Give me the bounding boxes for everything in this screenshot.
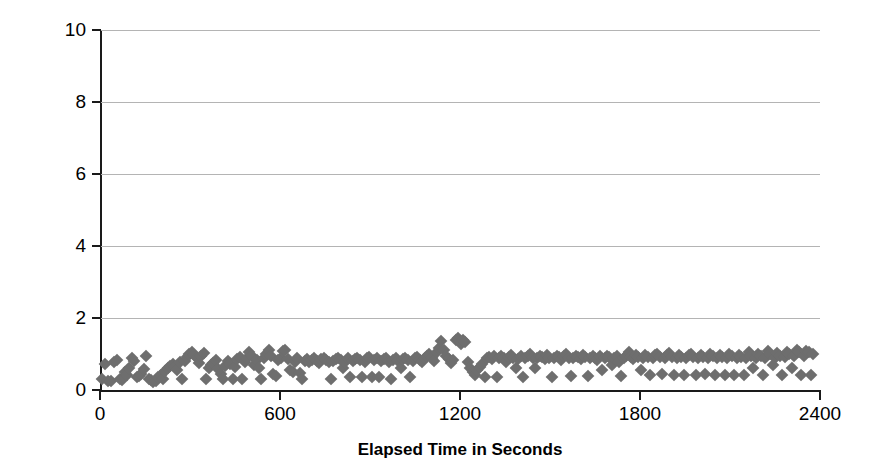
x-tick-label-2400: 2400	[799, 404, 841, 423]
y-tick-label-8: 8	[46, 92, 86, 111]
data-point	[404, 371, 417, 384]
gridline-y-8	[100, 102, 820, 103]
x-tick-mark-0	[99, 390, 101, 400]
y-tick-mark-8	[92, 101, 101, 103]
gridline-y-6	[100, 174, 820, 175]
x-tick-label-1800: 1800	[619, 404, 661, 423]
data-point	[565, 370, 578, 383]
data-point	[236, 373, 249, 386]
y-tick-mark-4	[92, 245, 101, 247]
y-tick-mark-6	[92, 173, 101, 175]
data-point	[776, 369, 789, 382]
plot-area	[100, 30, 820, 390]
data-point	[344, 371, 357, 384]
data-point	[545, 371, 558, 384]
gridline-y-2	[100, 318, 820, 319]
y-tick-label-2: 2	[46, 308, 86, 327]
data-point	[529, 362, 542, 375]
data-point	[517, 371, 530, 384]
x-tick-label-600: 600	[264, 404, 296, 423]
data-point	[677, 369, 690, 382]
y-axis-tick-labels: 0246810	[38, 0, 86, 475]
data-point	[656, 367, 669, 380]
y-tick-mark-10	[92, 29, 101, 31]
y-tick-mark-0	[92, 389, 101, 391]
x-tick-mark-600	[279, 390, 281, 400]
data-point	[325, 373, 338, 386]
y-tick-label-4: 4	[46, 236, 86, 255]
y-tick-mark-2	[92, 317, 101, 319]
data-point	[140, 349, 153, 362]
scatter-chart-figure: Maximum Cycle Time in Msec. 0246810 0600…	[0, 0, 874, 475]
data-point	[385, 373, 398, 386]
data-point	[581, 370, 594, 383]
y-tick-label-6: 6	[46, 164, 86, 183]
data-point	[615, 369, 628, 382]
x-axis-title: Elapsed Time in Seconds	[100, 440, 820, 460]
x-tick-mark-2400	[819, 390, 821, 400]
y-axis-title: Maximum Cycle Time in Msec.	[0, 0, 40, 475]
x-tick-mark-1800	[639, 390, 641, 400]
gridline-y-4	[100, 246, 820, 247]
data-point	[805, 369, 818, 382]
gridline-y-10	[100, 30, 820, 31]
data-point	[490, 371, 503, 384]
data-point	[200, 373, 213, 386]
x-tick-label-1200: 1200	[439, 404, 481, 423]
x-tick-mark-1200	[459, 390, 461, 400]
data-point	[757, 369, 770, 382]
data-point	[255, 373, 268, 386]
x-tick-label-0: 0	[95, 404, 106, 423]
y-tick-label-10: 10	[46, 20, 86, 39]
y-tick-label-0: 0	[46, 380, 86, 399]
